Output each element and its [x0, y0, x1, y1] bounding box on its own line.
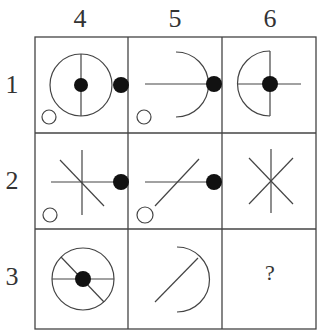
cell-2-6	[249, 149, 293, 213]
cell-1-4	[42, 54, 129, 124]
cell-3-5	[155, 247, 210, 312]
question-mark: ?	[255, 262, 285, 284]
cell-1-6	[238, 51, 302, 116]
cell-2-5	[137, 159, 222, 223]
cell-3-4	[52, 248, 114, 310]
cell-1-5	[137, 52, 222, 124]
cell-2-4	[43, 150, 129, 222]
